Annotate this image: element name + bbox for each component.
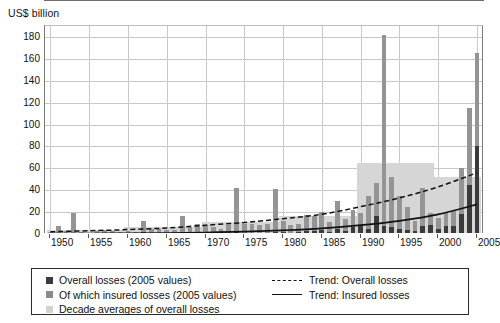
x-axis-tick-label: 2000 [439, 237, 461, 248]
legend-column-right: Trend: Overall lossesTrend: Insured loss… [272, 273, 410, 302]
x-axis-tick-label: 1995 [400, 237, 422, 248]
dashed-line-glyph [272, 280, 302, 281]
chart-container: US$ billion 020406080100120140160180 195… [0, 0, 500, 323]
y-axis-tick-label: 160 [2, 52, 40, 63]
legend-item: Overall losses (2005 values) [46, 273, 236, 288]
solid-line-glyph [272, 294, 302, 295]
x-axis-tick-label: 2005 [478, 237, 500, 248]
x-axis-tick-mark [282, 234, 283, 238]
trend-line-overall-losses [50, 173, 477, 232]
legend-item-label: Trend: Insured losses [309, 289, 410, 301]
y-axis-tick-label: 60 [2, 162, 40, 173]
legend-item-label: Trend: Overall losses [309, 274, 408, 286]
legend-item-label: Overall losses (2005 values) [59, 274, 191, 286]
dark-square-swatch [46, 277, 53, 284]
plot-inner [45, 26, 482, 233]
x-axis-tick-mark [360, 234, 361, 238]
x-axis-tick-label: 1955 [90, 237, 112, 248]
solid-line-swatch [272, 290, 302, 299]
y-axis-tick-label: 120 [2, 96, 40, 107]
gray-square-swatch [46, 291, 53, 298]
x-axis-tick-mark [205, 234, 206, 238]
x-axis-baseline [44, 0, 484, 1]
dashed-line-swatch [272, 276, 302, 285]
y-axis-tick-label: 180 [2, 30, 40, 41]
x-axis-tick-mark [321, 234, 322, 238]
y-axis-tick-label: 80 [2, 140, 40, 151]
x-axis-tick-mark [398, 234, 399, 238]
legend-item-label: Decade averages of overall losses [59, 303, 220, 315]
x-axis-tick-mark [243, 234, 244, 238]
y-axis-tick-label: 140 [2, 74, 40, 85]
x-axis-tick-label: 1950 [51, 237, 73, 248]
x-axis-tick-label: 1990 [362, 237, 384, 248]
legend-item: Of which insured losses (2005 values) [46, 288, 236, 303]
legend-column-left: Overall losses (2005 values)Of which ins… [46, 273, 236, 317]
x-axis-tick-mark [437, 234, 438, 238]
x-axis-tick-mark [476, 234, 477, 238]
legend-item: Decade averages of overall losses [46, 302, 236, 317]
x-axis-tick-label: 1985 [323, 237, 345, 248]
plot-area [44, 25, 483, 233]
y-axis-tick-label: 100 [2, 118, 40, 129]
x-axis-tick-mark [88, 234, 89, 238]
x-axis-tick-label: 1975 [245, 237, 267, 248]
x-axis-tick-label: 1965 [168, 237, 190, 248]
x-axis-tick-mark [166, 234, 167, 238]
trend-lines-overlay [45, 26, 482, 233]
light-gray-square-swatch [46, 306, 53, 313]
trend-line-insured-losses [50, 204, 477, 233]
y-axis-tick-label: 20 [2, 206, 40, 217]
x-axis-tick-label: 1980 [284, 237, 306, 248]
chart-legend: Overall losses (2005 values)Of which ins… [31, 268, 469, 315]
y-axis-tick-label: 40 [2, 184, 40, 195]
x-axis-tick-label: 1970 [207, 237, 229, 248]
x-axis-tick-label: 1960 [129, 237, 151, 248]
x-axis-tick-mark [49, 234, 50, 238]
y-axis-tick-label: 0 [2, 228, 40, 239]
x-axis-tick-mark [127, 234, 128, 238]
legend-item: Trend: Overall losses [272, 273, 410, 288]
legend-item-label: Of which insured losses (2005 values) [59, 289, 236, 301]
legend-item: Trend: Insured losses [272, 288, 410, 303]
